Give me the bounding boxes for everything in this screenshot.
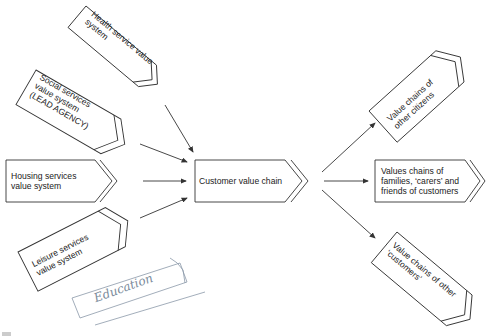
families-label: Values chains of families, ‘carers’ and … xyxy=(381,166,459,196)
housing-label: Housing services value system xyxy=(11,171,76,191)
arrow-citizens xyxy=(322,123,375,172)
arrow-health xyxy=(165,105,193,152)
arrow-leisure xyxy=(140,198,187,218)
arrow-others xyxy=(322,190,375,238)
center-label: Customer value chain xyxy=(199,176,282,186)
arrow-social xyxy=(140,144,187,162)
corner-marker xyxy=(2,332,11,336)
